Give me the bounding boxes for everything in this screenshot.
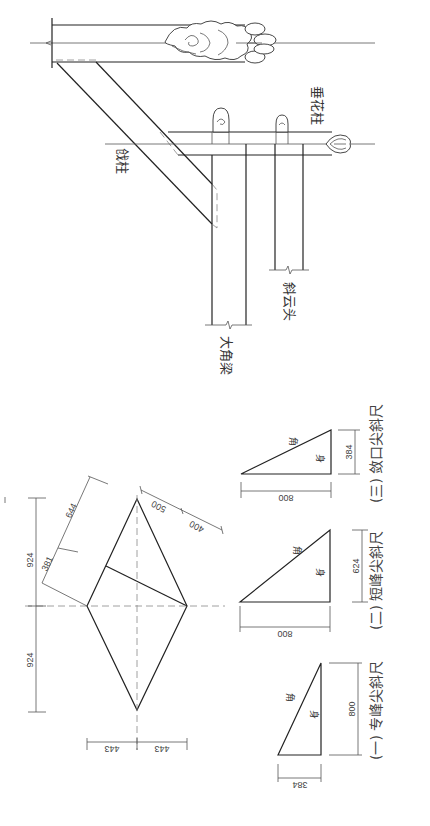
label-qiang-zhu: 戗柱 (115, 148, 130, 174)
bevel-ruler-2: 角 身 624 800 (二) 短峰尖斜尺 (240, 530, 384, 639)
ruler-2-caption: (二) 短峰尖斜尺 (368, 531, 384, 630)
post-cap-small-icon (276, 115, 288, 132)
ruler-3-height: 384 (344, 444, 354, 459)
ruler-2-tag-top: 角 (292, 546, 303, 555)
dim-edge-short: 381 (40, 555, 55, 573)
ruler-1-height: 800 (347, 701, 357, 716)
ruler-3-caption: (三) 敛口尖斜尺 (368, 404, 384, 503)
ruler-1-tag-top: 角 (285, 693, 296, 702)
dim-upper-half: 924 (25, 552, 35, 567)
ruler-1-base: 384 (292, 780, 307, 790)
ruler-3-tag-top: 角 (288, 437, 299, 446)
bevel-ruler-1: 角 身 800 384 (一) 专峰尖斜尺 (278, 661, 384, 790)
dim-right-half-width: 443 (154, 744, 169, 754)
ruler-1-caption: (一) 专峰尖斜尺 (368, 661, 384, 760)
label-da-jiao-liang: 大角梁 (219, 336, 234, 375)
xie-yun-tou-member (269, 144, 309, 274)
dim-edge-seg-a: 500 (150, 499, 168, 515)
label-chui-hua-zhu: 垂花柱 (310, 86, 325, 125)
carved-flower-ornament-icon (165, 21, 276, 63)
dim-lower-half: 924 (25, 652, 35, 667)
ruler-2-height: 624 (351, 558, 361, 573)
da-jiao-liang-member (205, 144, 252, 329)
ruler-2-tag-side: 身 (315, 568, 326, 577)
ruler-3-tag-side: 身 (315, 454, 326, 463)
ruler-2-base: 800 (277, 629, 292, 639)
plan-diamond: 924 924 443 443 381 644 500 400 (5, 476, 225, 754)
ruler-3-base: 800 (278, 493, 293, 503)
dim-edge-seg-b: 400 (188, 519, 206, 535)
label-xie-yun-tou: 斜云头 (282, 282, 297, 321)
timber-corner-diagram: 戗柱 垂花柱 大角梁 斜云头 924 924 443 443 381 644 (0, 0, 430, 826)
bevel-ruler-3: 角 身 384 800 (三) 敛口尖斜尺 (241, 404, 384, 503)
dim-edge-long: 644 (64, 502, 79, 520)
dim-left-half-width: 443 (104, 744, 119, 754)
post-cap-large-icon (213, 108, 229, 132)
drop-post-finial-icon (326, 135, 351, 153)
corner-elevation: 戗柱 垂花柱 大角梁 斜云头 (30, 18, 375, 375)
ruler-1-tag-side: 身 (309, 710, 320, 719)
